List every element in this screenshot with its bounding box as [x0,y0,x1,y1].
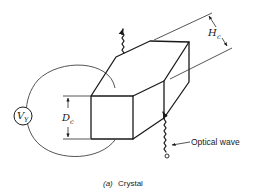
caption-text: Crystal [118,179,143,188]
height-label: H [207,27,217,38]
thickness-dimension: D c [61,96,90,139]
crystal-back-edge [164,42,189,118]
optical-wave-leader [172,142,190,145]
voltage-subscript: Y [24,116,29,124]
caption-prefix: (a) [103,179,113,188]
crystal-top-face [91,41,189,96]
thickness-label: D [61,112,70,123]
voltage-source: V Y [14,107,32,125]
thickness-subscript: c [70,118,74,126]
crystal [91,41,189,139]
optical-wave-label: Optical wave [191,137,240,147]
figure-caption: (a) Crystal [103,179,143,188]
output-wave-arrow [122,29,124,53]
crystal-front-face [91,96,133,139]
crystal-diagram: V Y H c D c Optical wave (a) Cr [0,0,258,196]
height-subscript: c [217,33,221,41]
height-dimension: H c [154,13,232,79]
wave-source-dot [165,154,169,158]
crystal-right-face [133,81,164,139]
